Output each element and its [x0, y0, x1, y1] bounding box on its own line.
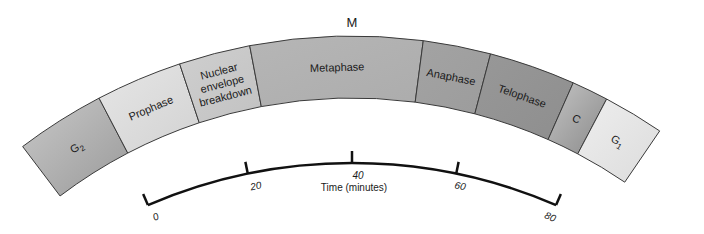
tick-label-0: 0: [151, 210, 161, 222]
tick-mark-20: [245, 162, 247, 174]
cell-cycle-arc: G2ProphaseNuclearenvelopebreakdownMetaph…: [23, 36, 660, 196]
tick-label-60: 60: [454, 179, 468, 192]
diagram-canvas: M G2ProphaseNuclearenvelopebreakdownMeta…: [0, 0, 704, 234]
time-axis-title: Time (minutes): [321, 182, 387, 193]
tick-label-80: 80: [543, 210, 558, 225]
tick-mark-80: [556, 194, 561, 205]
m-phase-label: M: [347, 15, 358, 30]
tick-mark-60: [456, 162, 458, 174]
tick-label-40: 40: [352, 170, 364, 181]
segment-label: Metaphase: [310, 60, 365, 74]
mitosis-timeline-diagram: M G2ProphaseNuclearenvelopebreakdownMeta…: [0, 0, 704, 234]
tick-mark-0: [143, 194, 148, 205]
segment-metaphase: Metaphase: [250, 36, 424, 107]
tick-label-20: 20: [248, 179, 263, 192]
